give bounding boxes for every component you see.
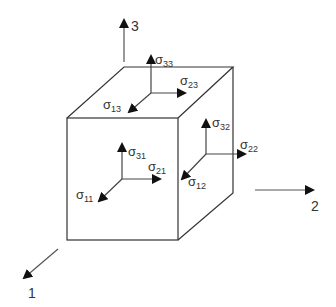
axis-3-label: 3 xyxy=(131,18,139,34)
sigma-11-label: σ11 xyxy=(76,187,93,204)
sigma-11-arrow xyxy=(99,179,122,201)
sigma-13-arrow xyxy=(129,93,151,112)
sigma-23-label: σ23 xyxy=(180,73,198,90)
sigma-31-label: σ31 xyxy=(128,144,146,161)
sigma-22-label: σ22 xyxy=(240,137,258,154)
sigma-21-label: σ21 xyxy=(148,159,166,176)
sigma-12-label: σ12 xyxy=(188,174,206,191)
sigma-33-label: σ33 xyxy=(155,52,173,69)
axis-1-arrow xyxy=(24,249,58,278)
sigma-32-label: σ32 xyxy=(212,115,230,132)
sigma-13-label: σ13 xyxy=(103,97,121,114)
axis-1-label: 1 xyxy=(28,285,36,301)
cube-top-edges xyxy=(67,67,233,118)
stress-cube-diagram: 3 2 1 σ33 σ23 σ13 σ32 σ22 σ12 σ31 σ21 σ1… xyxy=(0,0,336,307)
axis-2-label: 2 xyxy=(311,198,319,214)
